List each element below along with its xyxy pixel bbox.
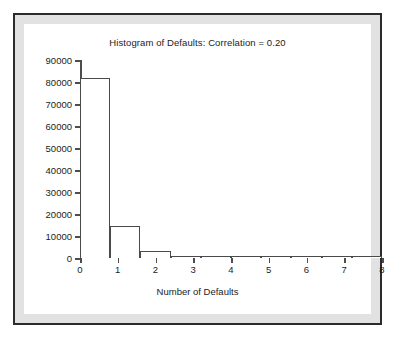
x-tick-label: 6 bbox=[304, 264, 309, 275]
histogram-bar bbox=[140, 251, 170, 258]
x-tick bbox=[307, 258, 309, 263]
y-tick-label: 90000 bbox=[46, 55, 72, 66]
x-tick bbox=[269, 258, 271, 263]
histogram-bar bbox=[291, 256, 321, 258]
x-tick-label: 1 bbox=[115, 264, 120, 275]
x-tick bbox=[156, 258, 158, 263]
x-tick-label: 2 bbox=[153, 264, 158, 275]
y-tick-label: 60000 bbox=[46, 121, 72, 132]
figure-frame: Histogram of Defaults: Correlation = 0.2… bbox=[13, 13, 382, 325]
x-tick-label: 0 bbox=[77, 264, 82, 275]
y-tick-label: 80000 bbox=[46, 77, 72, 88]
histogram-bar bbox=[80, 78, 110, 258]
histogram-bar bbox=[261, 256, 291, 258]
plot-area: 0100002000030000400005000060000700008000… bbox=[80, 60, 382, 258]
x-axis-title: Number of Defaults bbox=[24, 286, 371, 297]
histogram-bar bbox=[110, 226, 140, 258]
x-tick bbox=[344, 258, 346, 263]
y-tick-label: 30000 bbox=[46, 187, 72, 198]
x-tick-label: 8 bbox=[379, 264, 384, 275]
histogram-bar bbox=[201, 256, 231, 258]
x-tick-label: 7 bbox=[342, 264, 347, 275]
histogram-bar bbox=[352, 256, 382, 258]
histogram-bar bbox=[171, 256, 201, 258]
x-tick-label: 4 bbox=[228, 264, 233, 275]
y-tick-label: 40000 bbox=[46, 165, 72, 176]
y-tick-label: 10000 bbox=[46, 231, 72, 242]
y-tick-label: 20000 bbox=[46, 209, 72, 220]
y-tick-label: 0 bbox=[67, 253, 72, 264]
y-tick bbox=[75, 60, 80, 62]
x-tick bbox=[193, 258, 195, 263]
histogram-bar bbox=[322, 256, 352, 258]
x-tick bbox=[80, 258, 82, 263]
y-tick-label: 70000 bbox=[46, 99, 72, 110]
x-tick bbox=[118, 258, 120, 263]
x-tick bbox=[382, 258, 384, 263]
y-tick-label: 50000 bbox=[46, 143, 72, 154]
x-tick-label: 5 bbox=[266, 264, 271, 275]
x-tick bbox=[231, 258, 233, 263]
plot-card: Histogram of Defaults: Correlation = 0.2… bbox=[24, 24, 371, 314]
histogram-bar bbox=[231, 256, 261, 258]
x-tick-label: 3 bbox=[191, 264, 196, 275]
chart-title: Histogram of Defaults: Correlation = 0.2… bbox=[24, 37, 371, 48]
